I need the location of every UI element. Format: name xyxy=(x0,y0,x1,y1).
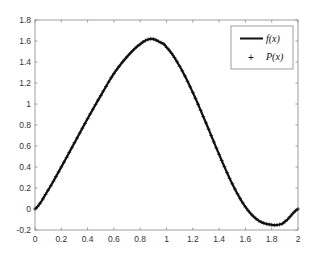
legend-label-f: f(x) xyxy=(266,33,281,45)
x-tick-label: 0.2 xyxy=(55,234,67,244)
y-tick-label: 0.6 xyxy=(19,141,31,151)
x-tick-label: 1.6 xyxy=(239,234,251,244)
y-tick-label: 0.8 xyxy=(19,120,31,130)
y-tick-label: 0 xyxy=(26,204,31,214)
x-tick-label: 1 xyxy=(164,234,169,244)
y-tick-label: 1.2 xyxy=(19,78,31,88)
y-tick-label: 1.8 xyxy=(19,15,31,25)
legend-box xyxy=(231,26,293,69)
legend-plus-icon: + xyxy=(248,52,254,63)
y-tick-label: 1 xyxy=(26,99,31,109)
chart: 00.20.40.60.811.21.41.61.82 -0.200.20.40… xyxy=(0,0,320,262)
x-tick-label: 1.8 xyxy=(266,234,278,244)
x-tick-label: 1.2 xyxy=(187,234,199,244)
x-tick-label: 1.4 xyxy=(213,234,225,244)
x-tick-label: 0.4 xyxy=(82,234,94,244)
x-tick-label: 0 xyxy=(33,234,38,244)
y-tick-label: 0.4 xyxy=(19,162,31,172)
legend-label-p: P(x) xyxy=(265,51,284,63)
x-tick-label: 2 xyxy=(296,234,301,244)
y-tick-label: 1.6 xyxy=(19,36,31,46)
y-tick-label: 0.2 xyxy=(19,183,31,193)
x-tick-label: 0.8 xyxy=(134,234,146,244)
x-tick-label: 0.6 xyxy=(108,234,120,244)
y-tick-label: 1.4 xyxy=(19,57,31,67)
legend: f(x) + P(x) xyxy=(231,26,293,69)
y-tick-label: -0.2 xyxy=(16,225,31,235)
